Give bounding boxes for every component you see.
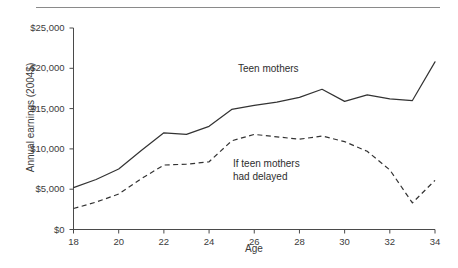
line-chart-plot — [0, 0, 458, 268]
annotation-if-delayed-line-1: If teen mothers — [233, 158, 300, 171]
y-axis-title: Annual earnings (2004$) — [25, 28, 36, 208]
annotation-if-teen-mothers-had-delayed: If teen mothers had delayed — [233, 158, 300, 183]
y-axis-tick-label: $0 — [0, 225, 65, 235]
chart-figure: $0$5,000$10,000$15,000$20,000$25,000 182… — [0, 0, 458, 268]
x-axis-title: Age — [73, 243, 435, 254]
x-axis-ticks — [74, 230, 436, 234]
y-axis-ticks — [70, 28, 74, 230]
annotation-if-delayed-line-2: had delayed — [233, 171, 300, 184]
axis-lines — [73, 28, 435, 230]
annotation-teen-mothers: Teen mothers — [238, 63, 299, 76]
